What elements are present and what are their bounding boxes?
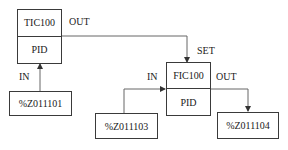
fic-out-label: OUT bbox=[216, 72, 237, 82]
fic-out-wire bbox=[210, 89, 248, 111]
fic-in-label: IN bbox=[147, 72, 158, 82]
fic100-tag: FIC100 bbox=[167, 63, 210, 89]
tic-out-label: OUT bbox=[69, 17, 90, 27]
fic-input-io-box[interactable]: %Z011103 bbox=[95, 113, 158, 139]
fic100-type: PID bbox=[167, 89, 210, 115]
fic-in-wire bbox=[124, 89, 165, 113]
tic-in-label: IN bbox=[19, 72, 30, 82]
tic-out-to-fic-set-wire bbox=[61, 36, 187, 62]
tic100-block[interactable]: TIC100 PID bbox=[17, 9, 62, 64]
tic100-tag: TIC100 bbox=[18, 10, 61, 37]
tic100-type: PID bbox=[18, 37, 61, 64]
fic100-block[interactable]: FIC100 PID bbox=[166, 62, 211, 116]
fic-set-label: SET bbox=[197, 46, 215, 56]
tic-input-io-box[interactable]: %Z011101 bbox=[9, 91, 72, 116]
fic-output-io-box[interactable]: %Z011104 bbox=[217, 112, 279, 139]
